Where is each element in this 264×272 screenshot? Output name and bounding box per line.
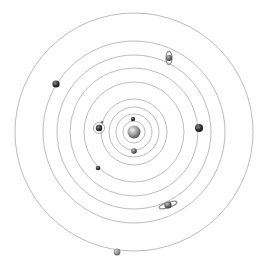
planet-jupiter — [195, 124, 203, 132]
solar-system-diagram — [0, 0, 264, 272]
uranus-icon — [166, 55, 172, 61]
venus-icon — [131, 148, 137, 154]
planet-venus — [131, 148, 137, 154]
sun-layer — [128, 126, 141, 139]
mars-icon — [96, 166, 101, 171]
saturn-icon — [164, 201, 171, 208]
pluto-icon — [114, 249, 121, 256]
planet-mercury — [131, 117, 135, 121]
neptune-icon — [52, 80, 59, 87]
jupiter-icon — [195, 124, 203, 132]
sun-icon — [128, 126, 141, 139]
mercury-icon — [131, 117, 135, 121]
planet-pluto — [114, 249, 121, 256]
planet-mars — [96, 166, 101, 171]
earth-icon — [96, 125, 102, 131]
planet-neptune — [52, 80, 59, 87]
moon-icon — [101, 121, 104, 124]
planet-uranus — [166, 51, 172, 64]
